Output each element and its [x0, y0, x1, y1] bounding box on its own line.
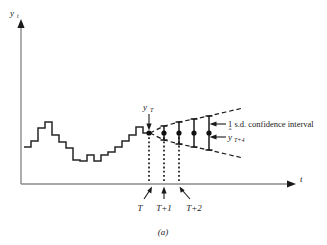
data-point-T-plus-3 — [191, 130, 196, 135]
x-tick-label-T-plus-1: T+1 — [156, 203, 172, 213]
x-tick-arrow-shaft — [182, 190, 190, 199]
forecast-chart-svg: y t t — [0, 0, 327, 245]
axis-labels: y t t — [9, 8, 303, 184]
data-point-T — [146, 130, 151, 135]
confidence-interval-arrow-head — [210, 121, 217, 126]
forecast-figure: y t t — [0, 0, 327, 245]
forecast-value-label: y — [227, 132, 232, 142]
y-axis-label-subscript: t — [17, 13, 19, 19]
x-tick-annotations: T T+1 T+2 — [137, 187, 202, 214]
observed-step-series — [24, 122, 149, 161]
x-axis-arrowhead — [287, 181, 296, 188]
last-observation-arrow-head — [146, 124, 151, 131]
forecast-value-annotation: y ̂ T+4 — [210, 128, 245, 144]
forecast-point-markers — [146, 130, 211, 135]
x-axis-label: t — [300, 174, 303, 184]
forecast-value-label-subscript: T+4 — [234, 137, 244, 143]
x-tick-T-plus-2: T+2 — [180, 187, 203, 214]
confidence-interval-label: 1 s.d. confidence interval — [228, 119, 314, 129]
x-tick-label-T: T — [137, 203, 143, 213]
x-tick-T-plus-1: T+1 — [156, 187, 172, 214]
y-axis-label: y — [9, 8, 14, 18]
forecast-value-arrow-head — [210, 134, 217, 139]
x-tick-label-T-plus-2: T+2 — [186, 203, 202, 213]
data-point-T-plus-1 — [161, 130, 166, 135]
confidence-interval-annotation: 1 s.d. confidence interval — [210, 119, 315, 129]
axis-group — [17, 19, 296, 187]
data-point-T-plus-2 — [176, 130, 181, 135]
last-observation-label: y — [142, 102, 147, 112]
observed-series-polyline — [24, 122, 149, 161]
figure-caption: (a) — [158, 227, 169, 237]
x-tick-T: T — [137, 187, 152, 214]
last-observation-label-subscript: T — [150, 107, 154, 113]
x-tick-arrow-head — [161, 187, 166, 194]
data-point-T-plus-4 — [206, 130, 211, 135]
y-axis-arrowhead — [17, 19, 24, 28]
last-observation-annotation: y T — [142, 102, 154, 131]
